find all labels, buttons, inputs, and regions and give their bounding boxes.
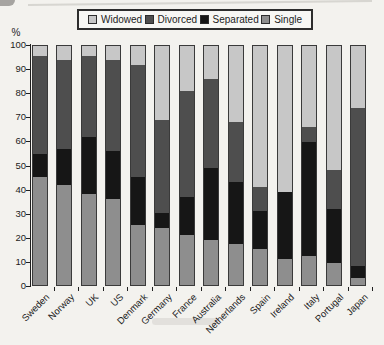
bar-france xyxy=(179,45,195,286)
segment-widowed-norway xyxy=(57,46,71,60)
segment-divorced-sweden xyxy=(33,56,47,154)
segment-divorced-us xyxy=(106,60,120,151)
segment-divorced-portugal xyxy=(327,170,341,208)
x-tick-mark-13 xyxy=(372,287,373,291)
x-label-us: US xyxy=(109,292,125,308)
segment-single-uk xyxy=(82,194,96,285)
segment-widowed-sweden xyxy=(33,46,47,56)
x-tick-mark-9 xyxy=(274,287,275,291)
bar-spain xyxy=(252,45,268,286)
legend-item-divorced: Divorced xyxy=(145,14,197,25)
y-tick-mark-0 xyxy=(26,286,30,287)
segment-single-spain xyxy=(253,249,267,285)
y-tick-label-90: 90 xyxy=(0,64,26,74)
y-axis-unit-label: % xyxy=(6,27,26,38)
y-tick-label-50: 50 xyxy=(0,161,26,171)
x-tick-mark-7 xyxy=(225,287,226,291)
segment-separated-sweden xyxy=(33,154,47,178)
x-tick-mark-1 xyxy=(78,287,79,291)
y-tick-label-100: 100 xyxy=(0,40,26,50)
segment-divorced-france xyxy=(180,91,194,196)
segment-single-france xyxy=(180,235,194,285)
segment-divorced-uk xyxy=(82,56,96,137)
y-tick-mark-30 xyxy=(26,214,30,215)
segment-single-denmark xyxy=(131,225,145,285)
bar-uk xyxy=(81,45,97,286)
segment-divorced-japan xyxy=(351,108,365,266)
x-label-uk: UK xyxy=(84,292,100,308)
segment-widowed-uk xyxy=(82,46,96,56)
bar-japan xyxy=(350,45,366,286)
segment-widowed-france xyxy=(180,46,194,91)
x-tick-mark-0 xyxy=(54,287,55,291)
y-tick-label-30: 30 xyxy=(0,209,26,219)
legend-swatch-widowed xyxy=(88,15,97,24)
segment-separated-spain xyxy=(253,211,267,249)
plot-area xyxy=(31,45,374,286)
segment-divorced-germany xyxy=(155,120,169,213)
x-tick-mark-6 xyxy=(201,287,202,291)
x-tick-mark-11 xyxy=(323,287,324,291)
segment-separated-australia xyxy=(204,168,218,240)
segment-single-italy xyxy=(302,256,316,285)
segment-single-germany xyxy=(155,228,169,285)
y-tick-label-70: 70 xyxy=(0,112,26,122)
segment-single-ireland xyxy=(278,259,292,285)
y-tick-mark-100 xyxy=(26,45,30,46)
bar-italy xyxy=(301,45,317,286)
segment-separated-germany xyxy=(155,213,169,227)
segment-widowed-ireland xyxy=(278,46,292,192)
segment-divorced-australia xyxy=(204,79,218,167)
segment-widowed-italy xyxy=(302,46,316,127)
x-tick-mark-2 xyxy=(103,287,104,291)
segment-widowed-japan xyxy=(351,46,365,108)
legend-label-divorced: Divorced xyxy=(158,14,197,25)
segment-separated-us xyxy=(106,151,120,199)
legend-item-single: Single xyxy=(261,14,302,25)
segment-widowed-australia xyxy=(204,46,218,79)
y-tick-mark-70 xyxy=(26,117,30,118)
segment-separated-ireland xyxy=(278,192,292,259)
segment-single-netherlands xyxy=(229,244,243,285)
segment-single-sweden xyxy=(33,177,47,285)
segment-separated-norway xyxy=(57,149,71,185)
x-tick-mark-12 xyxy=(348,287,349,291)
x-label-japan: Japan xyxy=(345,292,370,317)
x-label-ireland: Ireland xyxy=(269,292,297,320)
legend-swatch-single xyxy=(261,15,270,24)
bar-ireland xyxy=(277,45,293,286)
y-tick-mark-50 xyxy=(26,166,30,167)
bar-norway xyxy=(56,45,72,286)
segment-widowed-portugal xyxy=(327,46,341,170)
y-tick-label-0: 0 xyxy=(0,281,26,291)
y-tick-label-20: 20 xyxy=(0,233,26,243)
segment-widowed-denmark xyxy=(131,46,145,65)
bar-denmark xyxy=(130,45,146,286)
segment-single-japan xyxy=(351,278,365,285)
y-tick-mark-90 xyxy=(26,69,30,70)
legend: WidowedDivorcedSeparatedSingle xyxy=(77,9,313,30)
segment-widowed-germany xyxy=(155,46,169,120)
segment-divorced-netherlands xyxy=(229,122,243,182)
y-tick-label-10: 10 xyxy=(0,257,26,267)
segment-divorced-norway xyxy=(57,60,71,148)
y-tick-mark-10 xyxy=(26,262,30,263)
x-tick-mark-5 xyxy=(176,287,177,291)
x-tick-mark-3 xyxy=(127,287,128,291)
scan-artifact-streak xyxy=(28,0,372,6)
y-tick-mark-40 xyxy=(26,190,30,191)
segment-single-us xyxy=(106,199,120,285)
legend-label-separated: Separated xyxy=(213,14,259,25)
x-label-italy: Italy xyxy=(302,292,321,311)
x-label-norway: Norway xyxy=(46,292,76,322)
legend-item-separated: Separated xyxy=(200,14,259,25)
legend-swatch-divorced xyxy=(145,15,154,24)
y-tick-mark-60 xyxy=(26,141,30,142)
y-tick-label-40: 40 xyxy=(0,185,26,195)
segment-widowed-us xyxy=(106,46,120,60)
segment-separated-italy xyxy=(302,142,316,257)
segment-single-norway xyxy=(57,185,71,285)
chart-figure: WidowedDivorcedSeparatedSingle % 1009080… xyxy=(0,0,384,345)
bar-netherlands xyxy=(228,45,244,286)
segment-divorced-italy xyxy=(302,127,316,141)
